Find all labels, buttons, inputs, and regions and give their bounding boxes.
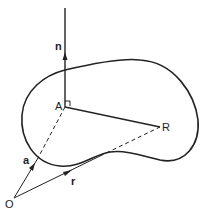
- line-AR: [65, 107, 160, 127]
- label-a: a: [23, 155, 29, 166]
- plane-vector-diagram: n A R a r O: [0, 0, 209, 212]
- label-n: n: [55, 41, 62, 52]
- vector-r-dashed: [100, 127, 160, 156]
- plane-outline: [22, 60, 198, 167]
- diagram-canvas: [0, 0, 209, 212]
- normal-arrowhead-icon: [63, 52, 68, 60]
- label-A: A: [55, 101, 62, 112]
- label-r: r: [71, 176, 75, 187]
- label-O: O: [5, 199, 14, 210]
- vector-a-dashed: [38, 107, 65, 158]
- vector-a-arrowhead-icon: [29, 163, 35, 171]
- right-angle-marker: [65, 101, 70, 106]
- label-R: R: [162, 122, 170, 133]
